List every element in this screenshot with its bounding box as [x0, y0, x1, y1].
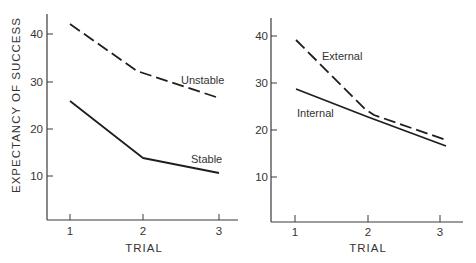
- left-y-tick-label-40: 40: [30, 28, 43, 40]
- left-x-tick-label-3: 3: [216, 225, 222, 237]
- right-y-tick-label-20: 20: [255, 124, 268, 136]
- series-unstable-line: [70, 24, 219, 98]
- y-axis-label: EXPECTANCY OF SUCCESS: [10, 17, 22, 193]
- right-y-tick-label-30: 30: [255, 77, 268, 89]
- right-x-axis-label: TRIAL: [349, 242, 387, 254]
- left-y-tick-label-20: 20: [30, 123, 43, 135]
- chart-svg: EXPECTANCY OF SUCCESS 40 30 20 10 1 2 3 …: [0, 0, 476, 263]
- left-y-tick-label-10: 10: [30, 170, 43, 182]
- figure: EXPECTANCY OF SUCCESS 40 30 20 10 1 2 3 …: [0, 0, 476, 263]
- series-label-stable: Stable: [191, 153, 222, 165]
- right-x-tick-label-2: 2: [365, 226, 371, 238]
- right-y-tick-label-10: 10: [255, 171, 268, 183]
- series-label-external: External: [322, 50, 362, 62]
- series-label-unstable: Unstable: [181, 74, 224, 86]
- left-x-axis-label: TRIAL: [125, 242, 163, 254]
- series-label-internal: Internal: [297, 107, 334, 119]
- left-y-tick-label-30: 30: [30, 76, 43, 88]
- right-x-tick-label-1: 1: [292, 226, 298, 238]
- series-external-line: [296, 40, 446, 140]
- right-x-tick-label-3: 3: [437, 226, 443, 238]
- left-chart: EXPECTANCY OF SUCCESS 40 30 20 10 1 2 3 …: [10, 14, 238, 254]
- right-y-tick-label-40: 40: [255, 30, 268, 42]
- left-x-tick-label-1: 1: [67, 225, 73, 237]
- right-chart: 40 30 20 10 1 2 3 TRIAL External Interna…: [255, 18, 463, 254]
- left-x-tick-label-2: 2: [140, 225, 146, 237]
